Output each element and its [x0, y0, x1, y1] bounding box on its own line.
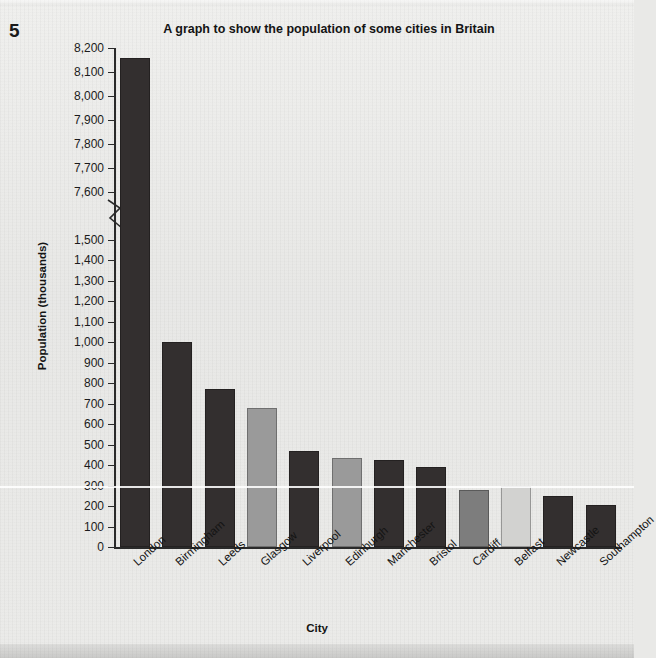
y-tick-label-text: 1,200: [74, 295, 104, 307]
y-tick-mark: [108, 240, 114, 241]
y-tick-label-text: 100: [84, 521, 104, 533]
bar-glasgow[interactable]: [247, 408, 277, 547]
y-tick-label-text: 1,300: [74, 275, 104, 287]
bars-layer: [114, 48, 622, 547]
y-tick-mark: [108, 424, 114, 425]
y-tick-label-text: 1,100: [74, 316, 104, 328]
y-tick-mark: [108, 363, 114, 364]
bar-belfast[interactable]: [501, 486, 531, 547]
y-tick-label-text: 400: [84, 459, 104, 471]
y-tick-label-text: 7,700: [74, 162, 104, 174]
y-tick-mark: [108, 96, 114, 97]
y-tick-mark: [108, 342, 114, 343]
y-tick-label-text: 600: [84, 418, 104, 430]
y-tick-label-text: 900: [84, 357, 104, 369]
y-tick-mark: [108, 445, 114, 446]
bar-newcastle[interactable]: [543, 496, 573, 547]
y-tick-label-text: 800: [84, 377, 104, 389]
y-tick-mark: [108, 168, 114, 169]
y-tick-label-text: 8,000: [74, 90, 104, 102]
y-tick-mark: [108, 281, 114, 282]
y-tick-mark: [108, 120, 114, 121]
y-tick-mark: [108, 72, 114, 73]
y-tick-label-text: 500: [84, 439, 104, 451]
y-tick-label-text: 0: [97, 541, 104, 553]
y-tick-mark: [108, 547, 114, 548]
y-tick-label-text: 7,900: [74, 114, 104, 126]
y-tick-mark: [108, 506, 114, 507]
bar-birmingham[interactable]: [162, 342, 192, 547]
y-tick-mark: [108, 404, 114, 405]
x-axis-title: City: [0, 622, 634, 634]
y-tick-label-text: 7,800: [74, 138, 104, 150]
y-tick-label-text: 300: [84, 480, 104, 492]
y-tick-mark: [108, 527, 114, 528]
y-axis-tick-labels: 8,2008,1008,0007,9007,8007,7007,6001,500…: [0, 0, 104, 658]
y-tick-label-text: 8,200: [74, 42, 104, 54]
y-tick-mark: [108, 260, 114, 261]
bar-cardiff[interactable]: [459, 490, 489, 547]
y-tick-label-text: 1,500: [74, 234, 104, 246]
y-tick-mark: [108, 192, 114, 193]
y-tick-mark: [108, 383, 114, 384]
y-tick-mark: [108, 144, 114, 145]
y-tick-mark: [108, 48, 114, 49]
y-tick-mark: [108, 465, 114, 466]
y-tick-label-text: 1,400: [74, 254, 104, 266]
y-tick-mark: [108, 322, 114, 323]
page-bottom-edge: [0, 644, 634, 658]
y-tick-label-text: 700: [84, 398, 104, 410]
y-tick-mark: [108, 301, 114, 302]
y-tick-label-text: 200: [84, 500, 104, 512]
y-tick-label-text: 8,100: [74, 66, 104, 78]
bar-london[interactable]: [120, 58, 150, 547]
y-tick-label-text: 1,000: [74, 336, 104, 348]
y-tick-label-text: 7,600: [74, 186, 104, 198]
y-tick-mark: [108, 486, 114, 487]
